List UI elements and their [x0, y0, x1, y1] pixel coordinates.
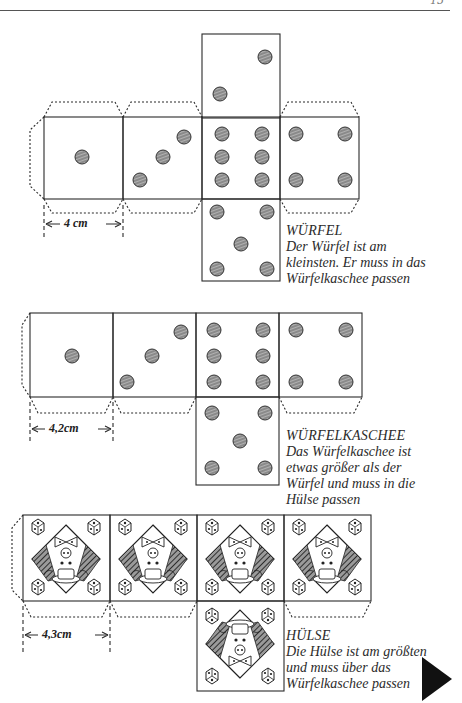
caption-huelse: HÜLSE Die Hülse ist am größten und muss …: [286, 628, 427, 692]
caption-line: Die Hülse ist am größten: [286, 644, 427, 660]
caption-wuerfel: WÜRFEL Der Würfel ist am kleinsten. Er m…: [286, 223, 426, 287]
caption-line: Hülse passen: [286, 492, 415, 508]
caption-line: etwas größer als der: [286, 460, 415, 476]
caption-line: kleinsten. Er muss in das: [286, 255, 426, 271]
dimension-label-huelse: 4,3cm: [42, 627, 72, 642]
caption-line: Würfelkaschee passen: [286, 271, 426, 287]
caption-title: WÜRFEL: [286, 223, 426, 239]
dimension-label-wuerfel: 4 cm: [64, 216, 88, 231]
caption-line: und muss über das: [286, 660, 427, 676]
caption-title: WÜRFELKASCHEE: [286, 428, 415, 444]
caption-line: Würfelkaschee passen: [286, 676, 427, 692]
caption-line: Das Würfelkaschee ist: [286, 444, 415, 460]
caption-line: Würfel und muss in die: [286, 476, 415, 492]
caption-title: HÜLSE: [286, 628, 427, 644]
caption-line: Der Würfel ist am: [286, 239, 426, 255]
cube-nets-illustration: [0, 0, 462, 703]
caption-wuerfelkaschee: WÜRFELKASCHEE Das Würfelkaschee ist etwa…: [286, 428, 415, 508]
play-triangle-icon[interactable]: [422, 657, 452, 701]
dimension-label-wuerfelkaschee: 4,2cm: [49, 421, 79, 436]
